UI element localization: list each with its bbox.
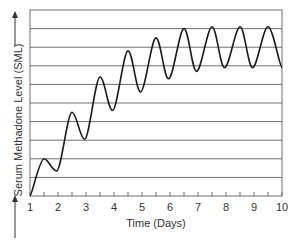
y-axis-title-group: Serum Methadone Level (SML) <box>12 44 24 197</box>
x-axis-title: Time (Days) <box>126 217 185 229</box>
x-tick-label: 6 <box>167 201 173 213</box>
y-axis-title: Serum Methadone Level (SML) <box>12 44 24 197</box>
methadone-chart: 12345678910 Time (Days) Serum Methadone … <box>0 0 292 241</box>
x-tick-label: 7 <box>195 201 201 213</box>
y-axis-up-arrow-top-icon <box>12 11 18 46</box>
sml-curve <box>30 27 282 196</box>
y-axis-up-arrow-bottom-icon <box>12 195 18 238</box>
x-axis-ticks <box>30 192 282 196</box>
x-tick-label: 8 <box>223 201 229 213</box>
gridlines <box>30 29 282 178</box>
x-tick-label: 9 <box>251 201 257 213</box>
x-tick-label: 4 <box>111 201 117 213</box>
x-tick-label: 2 <box>55 201 61 213</box>
x-tick-label: 1 <box>27 201 33 213</box>
x-tick-labels: 12345678910 <box>27 201 288 213</box>
x-tick-label: 3 <box>83 201 89 213</box>
x-tick-label: 10 <box>276 201 288 213</box>
x-tick-label: 5 <box>139 201 145 213</box>
